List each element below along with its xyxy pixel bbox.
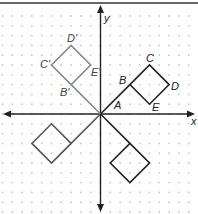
label-b: B	[119, 74, 126, 86]
point-labels: A B C D E B' C' D' E'	[40, 32, 179, 113]
x-axis-left-arrow-icon	[3, 111, 11, 118]
label-d: D	[171, 80, 179, 92]
coordinate-plane-diagram: x y A B C D E B' C' D' E'	[0, 0, 198, 214]
label-e-prime: E'	[91, 66, 101, 78]
segment	[101, 114, 130, 143]
label-b-prime: B'	[60, 86, 70, 98]
rotated-figure-180	[32, 114, 101, 163]
y-axis-up-arrow-icon	[97, 5, 104, 13]
label-a: A	[113, 99, 121, 111]
y-axis-down-arrow-icon	[97, 204, 104, 212]
y-axis-label: y	[103, 12, 111, 24]
reflected-figure-x-axis	[101, 114, 150, 183]
label-d-prime: D'	[67, 32, 78, 44]
x-axis-label: x	[190, 115, 197, 127]
label-e: E	[152, 101, 160, 113]
reflected-figure-y-axis	[52, 45, 101, 114]
segment	[71, 85, 100, 114]
label-c: C	[146, 52, 154, 64]
segment	[71, 114, 100, 143]
label-c-prime: C'	[40, 58, 51, 70]
